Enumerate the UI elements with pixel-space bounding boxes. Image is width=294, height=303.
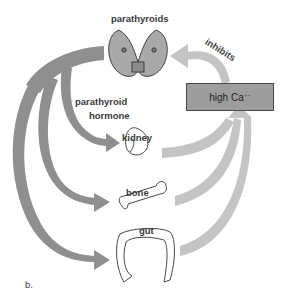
calcium-regulation-diagram bbox=[0, 0, 294, 303]
hormone-arrows bbox=[13, 46, 120, 270]
feedback-arrows bbox=[162, 44, 252, 256]
parathyroid-hormone-label-line2: hormone bbox=[89, 110, 130, 121]
bone-label: bone bbox=[126, 187, 149, 198]
parathyroid-hormone-label-line1: parathyroid bbox=[75, 96, 127, 107]
kidney-label: kidney bbox=[122, 132, 152, 143]
high-calcium-text: high Ca bbox=[209, 92, 243, 103]
panel-label: b. bbox=[25, 279, 33, 290]
parathyroids-label: parathyroids bbox=[111, 13, 169, 24]
gut-label: gut bbox=[139, 225, 154, 236]
gut-icon bbox=[117, 228, 175, 282]
high-calcium-box: high Ca++ bbox=[186, 83, 274, 111]
parathyroids-icon bbox=[109, 30, 168, 76]
high-calcium-label: high Ca++ bbox=[187, 92, 273, 103]
calcium-charge: ++ bbox=[244, 92, 251, 98]
